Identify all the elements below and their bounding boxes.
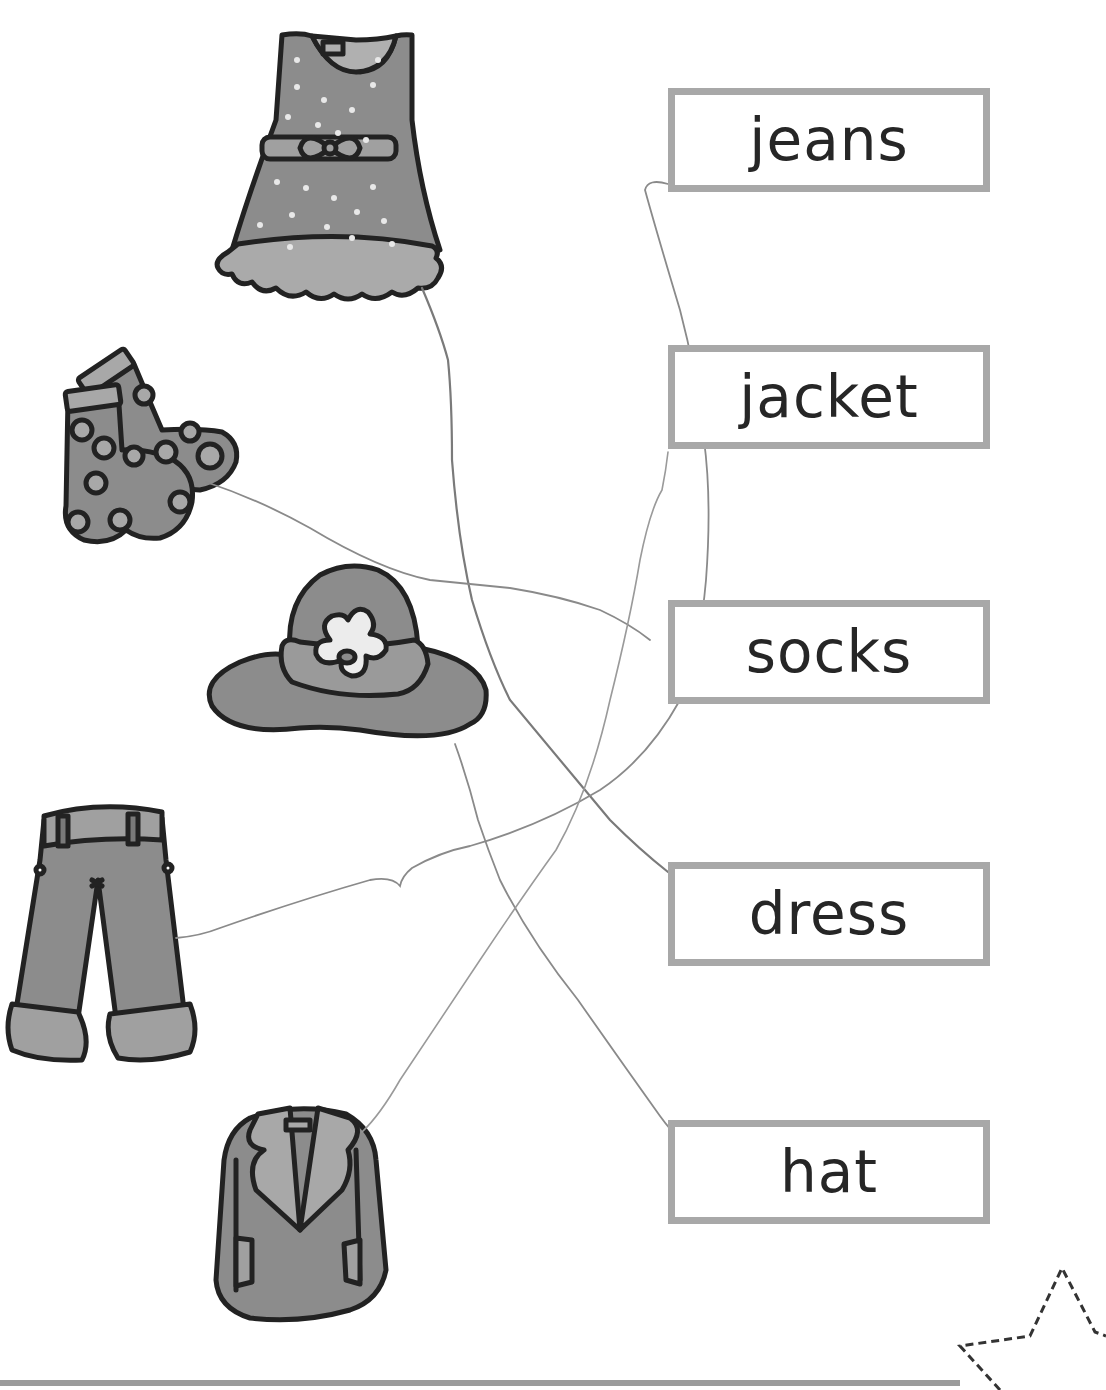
word-box-jacket[interactable]: jacket bbox=[668, 345, 990, 449]
word-label: jacket bbox=[739, 368, 919, 426]
word-box-socks[interactable]: socks bbox=[668, 600, 990, 704]
line-jacket-to-jacket bbox=[362, 452, 668, 1132]
socks-icon[interactable] bbox=[65, 348, 237, 542]
word-label: jeans bbox=[749, 111, 908, 169]
line-hat-to-hat bbox=[455, 744, 684, 1144]
line-dress-to-dress bbox=[422, 288, 668, 872]
jeans-icon[interactable] bbox=[8, 807, 195, 1060]
line-socks-to-socks bbox=[206, 482, 650, 640]
word-box-dress[interactable]: dress bbox=[668, 862, 990, 966]
dress-icon[interactable] bbox=[217, 34, 441, 299]
word-label: dress bbox=[749, 885, 910, 943]
line-jeans-to-jeans bbox=[176, 182, 709, 938]
jacket-icon[interactable] bbox=[216, 1108, 386, 1320]
word-label: socks bbox=[746, 623, 912, 681]
word-label: hat bbox=[780, 1143, 878, 1201]
dashed-star-icon bbox=[960, 1268, 1106, 1390]
word-box-hat[interactable]: hat bbox=[668, 1120, 990, 1224]
footer-divider bbox=[0, 1380, 960, 1386]
word-box-jeans[interactable]: jeans bbox=[668, 88, 990, 192]
hat-icon[interactable] bbox=[209, 566, 486, 736]
